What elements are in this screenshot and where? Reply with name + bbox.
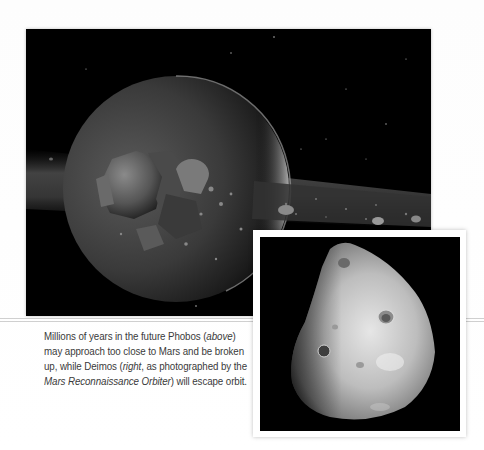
deimos-image xyxy=(260,237,460,431)
caption-emphasis-right: right xyxy=(123,360,142,372)
caption-emphasis-above: above xyxy=(206,330,232,342)
deimos-illustration xyxy=(260,237,460,431)
caption-orbiter-name: Mars Reconnaissance Orbiter xyxy=(44,375,171,387)
figure-caption: Millions of years in the future Phobos (… xyxy=(44,329,250,389)
caption-text: ) will escape orbit. xyxy=(171,375,247,387)
caption-text: Millions of years in the future Phobos ( xyxy=(44,330,206,342)
caption-text: , as photographed by the xyxy=(141,360,247,372)
deimos-photo-frame xyxy=(253,230,466,437)
